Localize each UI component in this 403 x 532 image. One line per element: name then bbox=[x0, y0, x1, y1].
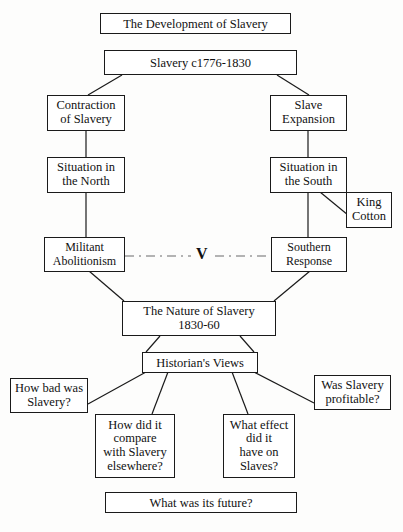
versus-label: V bbox=[196, 245, 208, 262]
edge-historians-to-effect bbox=[232, 372, 248, 414]
edge-period-to-contraction bbox=[88, 75, 122, 95]
node-label: Situation in the North bbox=[57, 161, 115, 189]
node-contraction-of-slavery: Contraction of Slavery bbox=[47, 95, 125, 131]
node-label: The Development of Slavery bbox=[123, 17, 268, 31]
node-label: Was Slavery profitable? bbox=[321, 379, 384, 407]
node-question-what-effect-on-slaves: What effect did it have on Slaves? bbox=[223, 414, 295, 478]
node-label: Slave Expansion bbox=[282, 99, 335, 127]
node-historians-views: Historian's Views bbox=[142, 352, 258, 373]
edge-period-to-expansion bbox=[277, 75, 309, 95]
node-situation-in-the-south: Situation in the South bbox=[270, 157, 347, 193]
node-label: King Cotton bbox=[352, 196, 386, 224]
node-question-was-slavery-profitable: Was Slavery profitable? bbox=[314, 375, 391, 410]
edge-response-to-nature bbox=[274, 271, 310, 301]
node-label: Historian's Views bbox=[156, 356, 244, 370]
node-question-what-was-its-future: What was its future? bbox=[105, 492, 297, 513]
node-label: Contraction of Slavery bbox=[56, 99, 115, 127]
node-nature-of-slavery: The Nature of Slavery 1830-60 bbox=[122, 301, 276, 336]
node-label: Southern Response bbox=[286, 241, 332, 267]
edge-historians-to-profitable bbox=[254, 372, 314, 403]
edge-south-to-king-cotton bbox=[320, 192, 348, 215]
edge-historians-to-compare bbox=[152, 372, 168, 414]
node-label: The Nature of Slavery 1830-60 bbox=[143, 305, 254, 333]
node-label: What was its future? bbox=[149, 496, 252, 510]
node-label: Militant Abolitionism bbox=[53, 241, 116, 267]
node-king-cotton: King Cotton bbox=[346, 192, 392, 228]
node-title-development-of-slavery: The Development of Slavery bbox=[100, 13, 291, 34]
node-slave-expansion: Slave Expansion bbox=[270, 95, 347, 131]
node-situation-in-the-north: Situation in the North bbox=[47, 157, 125, 193]
slavery-development-flowchart: The Development of Slavery Slavery c1776… bbox=[0, 0, 403, 532]
versus-marker: V bbox=[196, 245, 208, 263]
node-label: What effect did it have on Slaves? bbox=[230, 419, 288, 474]
edge-historians-to-how-bad bbox=[88, 372, 146, 404]
node-question-how-did-it-compare: How did it compare with Slavery elsewher… bbox=[95, 414, 175, 478]
node-label: How did it compare with Slavery elsewher… bbox=[103, 419, 167, 474]
node-label: Slavery c1776-1830 bbox=[150, 56, 251, 70]
edge-nature-to-historians-right bbox=[240, 336, 254, 352]
node-slavery-period: Slavery c1776-1830 bbox=[104, 50, 297, 75]
edge-nature-to-historians-left bbox=[146, 336, 160, 352]
node-militant-abolitionism: Militant Abolitionism bbox=[44, 237, 125, 272]
node-question-how-bad-was-slavery: How bad was Slavery? bbox=[10, 378, 88, 413]
node-southern-response: Southern Response bbox=[271, 237, 347, 272]
node-label: Situation in the South bbox=[280, 161, 338, 189]
node-label: How bad was Slavery? bbox=[15, 382, 83, 410]
edge-abolitionism-to-nature bbox=[89, 271, 124, 301]
